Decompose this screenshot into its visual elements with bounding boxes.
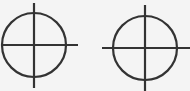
crosshair-left-icon [1,3,78,88]
figure-canvas [0,0,190,91]
crosshairs-diagram [0,0,190,91]
crosshair-right-icon [102,5,190,91]
